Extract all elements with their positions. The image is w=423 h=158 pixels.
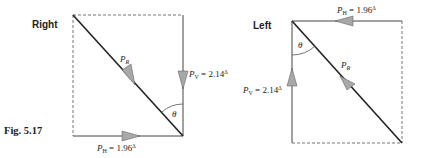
angle-arc <box>292 46 315 55</box>
diagram-title-right: Right <box>32 19 58 30</box>
resultant-label: PR <box>340 60 351 71</box>
vertical-component-label: PV = 2.14Δ <box>188 69 228 80</box>
left-eye-diagram: θ Left PR PV = 2.14Δ PH = 1.96Δ <box>242 5 402 143</box>
horizontal-arrow-left-icon <box>335 16 353 26</box>
angle-label: θ <box>298 40 303 50</box>
angle-label: θ <box>172 109 177 119</box>
horizontal-component-label: PH = 1.96Δ <box>336 5 376 16</box>
vertical-arrow-up-icon <box>287 68 297 86</box>
resultant-arrow-icon <box>122 64 135 85</box>
diagram-title-left: Left <box>253 20 272 31</box>
horizontal-arrow-right-icon <box>122 131 140 141</box>
figure-caption: Fig. 5.17 <box>4 125 42 136</box>
vertical-arrow-down-icon <box>178 71 188 89</box>
horizontal-component-label: PH = 1.96Δ <box>96 143 136 154</box>
vertical-component-label: PV = 2.14Δ <box>242 85 282 96</box>
resultant-label: PR <box>119 54 130 65</box>
prism-vector-diagram: θ Right PR PV = 2.14Δ PH = 1.96Δ Fig. 5.… <box>0 0 423 158</box>
right-eye-diagram: θ Right PR PV = 2.14Δ PH = 1.96Δ <box>32 15 228 154</box>
